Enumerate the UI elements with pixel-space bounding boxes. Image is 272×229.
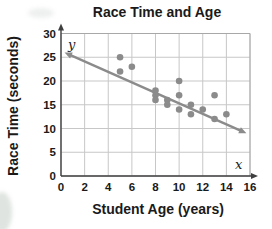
data-point [176,106,183,113]
x-axis-arrowhead [251,173,258,179]
y-axis-letter: y [67,37,76,52]
x-axis-letter: x [235,157,243,172]
y-axis-title: Race Time (seconds) [5,36,21,176]
y-tick-label: 0 [50,170,56,182]
x-axis-title: Student Age (years) [92,201,224,217]
data-point [152,97,159,104]
scatter-plot-figure: 0246810121416051015202530yx Race Time an… [0,0,272,229]
y-tick-label: 30 [43,28,56,40]
x-tick-label: 6 [129,181,135,193]
y-tick-label: 25 [43,51,56,63]
y-tick-label: 20 [43,75,56,87]
x-tick-label: 14 [220,181,233,193]
data-point [117,68,124,75]
x-tick-label: 16 [244,181,257,193]
x-tick-label: 0 [58,181,64,193]
x-tick-label: 2 [81,181,87,193]
chart-title: Race Time and Age [93,4,221,20]
x-tick-label: 8 [152,181,159,193]
y-tick-label: 10 [43,123,56,135]
data-point [199,106,206,113]
data-point [176,78,183,85]
data-point [223,111,230,118]
x-tick-label: 12 [196,181,209,193]
data-point [164,101,171,108]
data-point [211,116,218,123]
y-tick-label: 5 [50,146,57,158]
y-tick-label: 15 [43,99,56,111]
data-point [117,54,124,61]
x-tick-label: 4 [105,181,112,193]
data-point [176,92,183,99]
data-point [129,63,136,70]
data-point [211,92,218,99]
data-point [188,111,195,118]
data-point [188,101,195,108]
x-tick-label: 10 [173,181,186,193]
y-axis-arrowhead [58,24,64,31]
plot-canvas: 0246810121416051015202530yx [0,0,272,229]
